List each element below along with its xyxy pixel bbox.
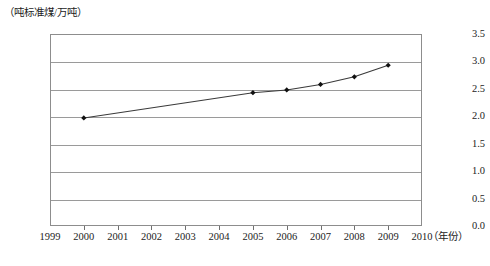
data-point-marker <box>386 63 391 68</box>
data-point-marker <box>318 82 323 87</box>
data-series-layer <box>0 0 490 266</box>
data-point-marker <box>250 90 255 95</box>
line-chart: （吨标准煤/万吨） 0.00.51.01.52.02.53.03.5 19992… <box>0 0 490 266</box>
data-point-marker <box>81 115 86 120</box>
data-point-marker <box>352 74 357 79</box>
data-point-marker <box>284 87 289 92</box>
series-line <box>84 65 388 118</box>
